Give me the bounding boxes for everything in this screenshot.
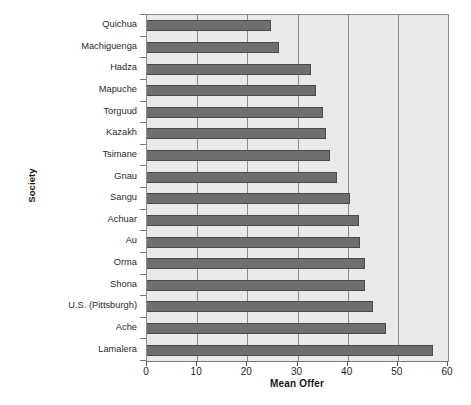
bar-row bbox=[147, 80, 448, 102]
category-label: Quichua bbox=[42, 14, 142, 36]
bar-row bbox=[147, 15, 448, 37]
bar bbox=[147, 301, 373, 312]
plot-area bbox=[146, 14, 449, 362]
bar bbox=[147, 128, 326, 139]
category-label: Ache bbox=[42, 317, 142, 339]
x-axis-tick-label: 40 bbox=[341, 366, 352, 377]
bar bbox=[147, 150, 330, 161]
bar bbox=[147, 64, 311, 75]
x-axis-tick-label: 20 bbox=[241, 366, 252, 377]
bar bbox=[147, 345, 433, 356]
category-label-column: QuichuaMachiguengaHadzaMapucheTorguudKaz… bbox=[42, 14, 142, 360]
category-label: Lamalera bbox=[42, 338, 142, 360]
bar bbox=[147, 323, 386, 334]
bar-row bbox=[147, 296, 448, 318]
x-axis-tick-label: 10 bbox=[191, 366, 202, 377]
category-label: Achuar bbox=[42, 209, 142, 231]
category-label: Mapuche bbox=[42, 79, 142, 101]
bar-row bbox=[147, 231, 448, 253]
y-axis-tick bbox=[140, 187, 146, 188]
category-label: Hadza bbox=[42, 57, 142, 79]
bar-row bbox=[147, 58, 448, 80]
bar-series bbox=[147, 15, 448, 361]
y-axis-tick bbox=[140, 79, 146, 80]
bar-row bbox=[147, 166, 448, 188]
y-axis-tick bbox=[140, 36, 146, 37]
bar bbox=[147, 42, 279, 53]
y-axis-tick bbox=[140, 252, 146, 253]
bar bbox=[147, 193, 350, 204]
bar-row bbox=[147, 339, 448, 361]
category-label: Machiguenga bbox=[42, 36, 142, 58]
category-label: U.S. (Pittsburgh) bbox=[42, 295, 142, 317]
bar-row bbox=[147, 102, 448, 124]
y-axis-tick bbox=[140, 274, 146, 275]
y-axis-title-text: Society bbox=[26, 168, 37, 203]
y-axis-tick bbox=[140, 57, 146, 58]
x-axis-tick-label: 0 bbox=[143, 366, 149, 377]
y-axis-tick bbox=[140, 230, 146, 231]
bar-row bbox=[147, 253, 448, 275]
bar-row bbox=[147, 37, 448, 59]
y-axis-tick bbox=[140, 165, 146, 166]
y-axis-tick bbox=[140, 144, 146, 145]
category-label: Gnau bbox=[42, 165, 142, 187]
category-label: Shona bbox=[42, 274, 142, 296]
bar-chart-figure: Society QuichuaMachiguengaHadzaMapucheTo… bbox=[0, 0, 471, 405]
y-axis-tick bbox=[140, 295, 146, 296]
bar bbox=[147, 237, 360, 248]
bar bbox=[147, 258, 365, 269]
bar-row bbox=[147, 123, 448, 145]
bar bbox=[147, 107, 323, 118]
x-axis-tick-label: 30 bbox=[291, 366, 302, 377]
y-axis-tick bbox=[140, 209, 146, 210]
category-label: Kazakh bbox=[42, 122, 142, 144]
y-axis-tick bbox=[140, 14, 146, 15]
bar bbox=[147, 85, 316, 96]
y-axis-tick bbox=[140, 338, 146, 339]
bar bbox=[147, 172, 337, 183]
x-axis-tick-label: 50 bbox=[391, 366, 402, 377]
category-label: Sangu bbox=[42, 187, 142, 209]
bar-row bbox=[147, 318, 448, 340]
bar-row bbox=[147, 145, 448, 167]
category-label: Orma bbox=[42, 252, 142, 274]
bar-row bbox=[147, 275, 448, 297]
bar-row bbox=[147, 210, 448, 232]
bar-row bbox=[147, 188, 448, 210]
y-axis-tick bbox=[140, 101, 146, 102]
bar bbox=[147, 280, 365, 291]
category-label: Au bbox=[42, 230, 142, 252]
bar bbox=[147, 215, 359, 226]
bar bbox=[147, 20, 271, 31]
x-axis-tick-label: 60 bbox=[441, 366, 452, 377]
y-axis-tick bbox=[140, 317, 146, 318]
y-axis-tick bbox=[140, 360, 146, 361]
y-axis-title: Society bbox=[22, 0, 40, 370]
category-label: Tsimane bbox=[42, 144, 142, 166]
x-axis-title: Mean Offer bbox=[146, 378, 448, 389]
y-axis-tick bbox=[140, 122, 146, 123]
category-label: Torguud bbox=[42, 101, 142, 123]
